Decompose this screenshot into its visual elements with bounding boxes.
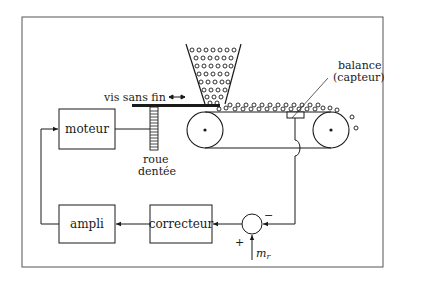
toothed-wheel-label-2: dentée <box>138 165 176 178</box>
ampli-to-moteur-wire <box>41 129 59 224</box>
correcteur-label: correcteur <box>149 217 214 231</box>
balance-sensor <box>287 112 304 118</box>
toothed-wheel <box>150 107 158 150</box>
moteur-label: moteur <box>65 122 109 136</box>
conveyor-belt <box>187 112 349 148</box>
minus-sign: − <box>264 209 273 222</box>
worm-screw-bar <box>132 104 220 107</box>
sum-junction <box>242 214 262 234</box>
balance-label-2: (capteur) <box>333 71 385 84</box>
conveyor-control-diagram: vis sans fin roue dentée balance (capteu… <box>0 0 424 296</box>
hopper <box>186 44 241 105</box>
worm-screw-label: vis sans fin <box>103 91 166 104</box>
ampli-label: ampli <box>70 217 104 231</box>
reference-label: mr <box>256 247 271 261</box>
plus-sign: + <box>235 236 244 249</box>
double-arrow-icon <box>169 95 185 99</box>
